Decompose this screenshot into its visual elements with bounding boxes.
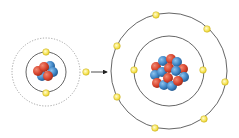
electron-icon (114, 43, 121, 50)
electron-icon (152, 125, 159, 132)
small-atom-nucleus (33, 61, 58, 81)
atom-electron-transfer-diagram (0, 0, 239, 138)
electron-transfer (83, 69, 107, 76)
large-atom-nucleus (150, 54, 189, 91)
electron-icon (43, 49, 50, 56)
electron-icon (43, 90, 50, 97)
electron-icon (204, 26, 211, 33)
electron-icon (201, 116, 208, 123)
electron-icon (153, 12, 160, 19)
electron-icon (200, 67, 207, 74)
electron-icon (114, 94, 121, 101)
electron-icon (222, 79, 229, 86)
small-atom (12, 38, 80, 106)
large-atom (111, 12, 228, 132)
electron-icon (131, 67, 138, 74)
free-electron-icon (83, 69, 90, 76)
